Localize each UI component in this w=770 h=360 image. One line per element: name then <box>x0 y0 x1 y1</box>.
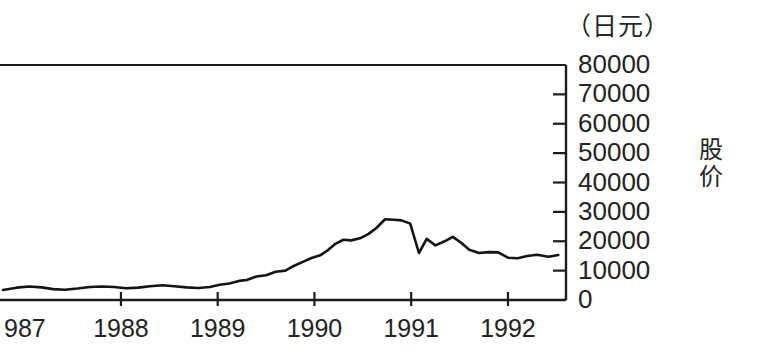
stock-price-line-series <box>3 219 558 290</box>
x-tick-label: 1989 <box>190 316 246 341</box>
y-tick-label: 30000 <box>578 198 650 224</box>
chart-axes <box>0 65 566 300</box>
x-tick-label: 1990 <box>287 316 343 341</box>
stock-price-chart-figure: （日元） 股价 80000700006000050000400003000020… <box>0 0 770 360</box>
y-tick-label: 70000 <box>578 80 650 106</box>
y-tick-label: 40000 <box>578 169 650 195</box>
x-tick-label: 987 <box>4 316 46 341</box>
y-tick-label: 50000 <box>578 139 650 165</box>
x-tick-label: 1988 <box>93 316 149 341</box>
y-axis-tick-marks <box>553 94 566 270</box>
chart-plot-area <box>0 0 770 360</box>
x-tick-label: 1992 <box>480 316 536 341</box>
x-tick-label: 1991 <box>383 316 439 341</box>
y-tick-label: 20000 <box>578 227 650 253</box>
y-tick-label: 0 <box>578 286 592 312</box>
y-tick-label: 60000 <box>578 110 650 136</box>
y-tick-label: 80000 <box>578 51 650 77</box>
y-tick-label: 10000 <box>578 257 650 283</box>
